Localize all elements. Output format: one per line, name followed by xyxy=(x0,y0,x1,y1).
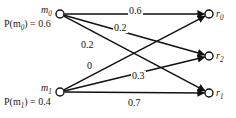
input-prior-m0-prefix: P(m xyxy=(4,18,21,29)
node-r0 xyxy=(205,10,213,18)
input-label-m1: m1 xyxy=(41,83,52,96)
edge-label-m0-r0: 0.6 xyxy=(128,6,143,16)
output-label-r2-sub: 2 xyxy=(220,56,224,64)
edge-label-m1-r2: 0.3 xyxy=(131,71,146,81)
node-m1 xyxy=(56,88,64,96)
edge-label-m1-r1: 0.7 xyxy=(127,98,142,108)
edge-label-m0-r1: 0.2 xyxy=(80,40,95,50)
node-m0 xyxy=(56,10,64,18)
output-label-r2: r2 xyxy=(216,51,224,64)
output-label-r0-sub: 0 xyxy=(220,14,224,22)
node-r1 xyxy=(205,89,213,97)
input-prior-m1: P(m1) = 0.4 xyxy=(4,97,51,110)
edge-label-m0-r2: 0.2 xyxy=(113,23,128,33)
input-prior-m1-value: ) = 0.4 xyxy=(24,96,50,107)
edge-layer xyxy=(64,14,205,93)
input-label-m0-sub: 0 xyxy=(48,10,52,18)
input-label-m0: m0 xyxy=(41,5,52,18)
edge-m1-r1 xyxy=(64,92,204,93)
node-r2 xyxy=(205,52,213,60)
input-label-m1-sub: 1 xyxy=(48,88,52,96)
output-label-r1-sub: 1 xyxy=(220,93,224,101)
input-prior-m0-value: ) = 0.6 xyxy=(24,18,50,29)
input-prior-m1-prefix: P(m xyxy=(4,96,21,107)
input-prior-m0: P(m0) = 0.6 xyxy=(4,19,51,32)
output-label-r0: r0 xyxy=(216,9,224,22)
edge-label-m1-r0: 0 xyxy=(86,61,93,71)
output-label-r1: r1 xyxy=(216,88,224,101)
